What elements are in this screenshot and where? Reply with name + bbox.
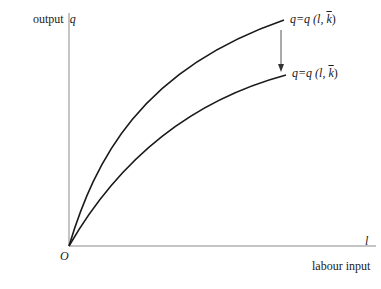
- production-function-diagram: output q q=q (l, k) q=q (l, k) O l labou…: [0, 0, 381, 289]
- y-axis-label-text: output: [33, 12, 64, 26]
- x-axis-symbol: l: [365, 235, 368, 247]
- origin-label: O: [60, 250, 69, 262]
- upper-curve-close: ): [332, 12, 336, 26]
- upper-production-curve: [69, 20, 284, 246]
- upper-curve-label: q=q (l, k): [290, 13, 336, 25]
- arrow-down-icon: [278, 64, 284, 72]
- lower-curve-lhs: q=q: [292, 66, 312, 80]
- lower-curve-label: q=q (l, k): [292, 67, 338, 79]
- lower-curve-close: ): [334, 66, 338, 80]
- x-axis-label: labour input: [312, 260, 370, 272]
- y-axis-symbol: q: [70, 12, 76, 26]
- lower-curve-args: (l,: [315, 66, 328, 80]
- lower-production-curve: [69, 75, 286, 246]
- y-axis-label: output q: [33, 13, 76, 25]
- diagram-canvas: [0, 0, 381, 289]
- upper-curve-lhs: q=q: [290, 12, 310, 26]
- upper-curve-args: (l,: [313, 12, 326, 26]
